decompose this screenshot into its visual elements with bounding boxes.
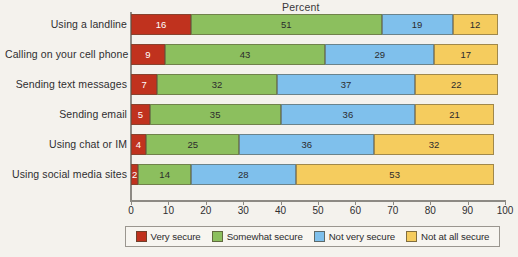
bar-segment: 21 <box>415 104 494 125</box>
bar-segment: 25 <box>146 134 240 155</box>
legend-label: Very secure <box>151 231 201 242</box>
bar-row: 4253632 <box>131 134 505 155</box>
bar-segment: 32 <box>157 74 277 95</box>
legend-swatch-icon <box>212 231 223 242</box>
chart-title: Percent <box>282 1 320 13</box>
bar-row: 16511912 <box>131 14 505 35</box>
legend-label: Not at all secure <box>421 231 489 242</box>
bar-row: 5353621 <box>131 104 505 125</box>
x-axis-tick-label: 100 <box>497 205 514 216</box>
stacked-bar-chart: Percent Using a landlineCalling on your … <box>0 0 518 257</box>
category-label: Using chat or IM <box>5 138 127 150</box>
legend-swatch-icon <box>406 231 417 242</box>
x-axis-tick-label: 10 <box>163 205 174 216</box>
x-axis-tick-label: 20 <box>200 205 211 216</box>
bar-segment: 5 <box>131 104 150 125</box>
category-label: Using social media sites <box>5 168 127 180</box>
category-label: Using a landline <box>5 18 127 30</box>
x-axis-tick-label: 0 <box>128 205 134 216</box>
legend-label: Somewhat secure <box>227 231 303 242</box>
bar-row: 9432917 <box>131 44 505 65</box>
bar-segment: 53 <box>296 164 494 185</box>
legend-swatch-icon <box>136 231 147 242</box>
bar-segment: 36 <box>239 134 374 155</box>
x-axis-tick-label: 80 <box>425 205 436 216</box>
x-axis-tick-label: 90 <box>462 205 473 216</box>
bar-segment: 29 <box>325 44 433 65</box>
bar-segment: 16 <box>131 14 191 35</box>
bar-row: 2142853 <box>131 164 505 185</box>
bar-segment: 17 <box>434 44 498 65</box>
bar-segment: 4 <box>131 134 146 155</box>
bar-segment: 32 <box>374 134 494 155</box>
category-label: Sending text messages <box>5 78 127 90</box>
legend-item[interactable]: Somewhat secure <box>212 231 303 242</box>
bar-segment: 9 <box>131 44 165 65</box>
legend-swatch-icon <box>314 231 325 242</box>
bar-segment: 22 <box>415 74 497 95</box>
x-axis-tick-label: 70 <box>387 205 398 216</box>
bar-row: 7323722 <box>131 74 505 95</box>
bar-segment: 36 <box>281 104 416 125</box>
bar-segment: 28 <box>191 164 296 185</box>
legend-item[interactable]: Not at all secure <box>406 231 489 242</box>
bar-segment: 35 <box>150 104 281 125</box>
category-label: Sending email <box>5 108 127 120</box>
chart-legend: Very secureSomewhat secureNot very secur… <box>125 226 500 247</box>
legend-item[interactable]: Very secure <box>136 231 201 242</box>
legend-label: Not very secure <box>329 231 395 242</box>
bars-area: 1651191294329177323722535362142536322142… <box>131 14 505 196</box>
x-axis-tick-label: 60 <box>350 205 361 216</box>
bar-segment: 51 <box>191 14 382 35</box>
bar-segment: 37 <box>277 74 415 95</box>
category-label: Calling on your cell phone <box>5 48 127 60</box>
bar-segment: 2 <box>131 164 138 185</box>
x-axis-tick-label: 40 <box>275 205 286 216</box>
x-axis-tick-label: 50 <box>312 205 323 216</box>
bar-segment: 12 <box>453 14 498 35</box>
bar-segment: 7 <box>131 74 157 95</box>
bar-segment: 19 <box>382 14 453 35</box>
bar-segment: 43 <box>165 44 326 65</box>
x-axis-tick-label: 30 <box>238 205 249 216</box>
legend-item[interactable]: Not very secure <box>314 231 395 242</box>
bar-segment: 14 <box>138 164 190 185</box>
category-labels: Using a landlineCalling on your cell pho… <box>0 0 127 200</box>
